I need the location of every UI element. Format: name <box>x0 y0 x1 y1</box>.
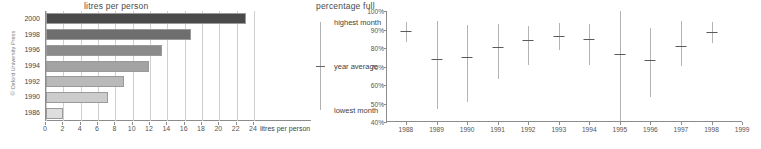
bar-row <box>46 92 254 103</box>
y-axis-tick-mark <box>384 67 387 68</box>
y-axis-tick-mark <box>384 122 387 123</box>
y-axis-tick-label: 80% <box>371 45 384 52</box>
y-axis-tick-label: 70% <box>371 63 384 70</box>
bar-row <box>46 45 254 56</box>
average-marker <box>614 54 625 55</box>
x-axis-tick-label: 4 <box>78 125 82 132</box>
range-bar <box>589 24 590 65</box>
y-axis-tick-label: 1996 <box>0 46 40 53</box>
y-axis-tick-label: 100% <box>367 8 384 15</box>
bar <box>46 76 124 87</box>
x-axis-tick-mark <box>149 122 150 125</box>
gridline-vertical <box>254 11 255 121</box>
x-axis-tick-label: 10 <box>128 125 136 132</box>
x-axis-tick-mark <box>184 122 185 125</box>
average-marker <box>492 47 503 48</box>
plot-area-right: 40%50%60%70%80%90%100%198819891990199119… <box>386 11 742 122</box>
legend-item-lowest-month: lowest month <box>334 106 378 115</box>
x-axis-tick-mark <box>406 122 407 125</box>
figure-pair: © Oxford University Press litres per per… <box>0 0 761 149</box>
x-axis-tick-label: 1991 <box>490 126 505 133</box>
y-axis-tick-mark <box>384 104 387 105</box>
average-marker <box>400 31 411 32</box>
range-bar <box>681 21 682 66</box>
x-axis-tick-mark <box>166 122 167 125</box>
plot-area-left <box>45 11 253 121</box>
x-axis-tick-label: 1998 <box>704 126 719 133</box>
range-bar <box>467 25 468 102</box>
x-axis-tick-label: 24 <box>249 125 257 132</box>
x-axis-tick-mark <box>467 122 468 125</box>
x-axis-tick-label: 1994 <box>582 126 597 133</box>
range-bar <box>498 24 499 79</box>
x-axis-tick-mark <box>114 122 115 125</box>
x-axis-tick-label: 1989 <box>429 126 444 133</box>
range-bar <box>650 28 651 97</box>
x-axis-tick-mark <box>437 122 438 125</box>
chart-percentage-full: percentage full highest month year avera… <box>300 0 761 149</box>
y-axis-tick-label: 50% <box>371 100 384 107</box>
x-axis-line <box>46 120 311 121</box>
average-marker <box>431 59 442 60</box>
x-axis-tick-mark <box>559 122 560 125</box>
bar-row <box>46 13 254 24</box>
x-axis-tick-label: 1993 <box>551 126 566 133</box>
y-axis-tick-label: 90% <box>371 26 384 33</box>
x-axis-tick-label: 2 <box>60 125 64 132</box>
range-bar <box>437 21 438 109</box>
x-axis-tick-mark <box>253 122 254 125</box>
bar-row <box>46 29 254 40</box>
x-axis-tick-label: 22 <box>232 125 240 132</box>
x-axis-tick-label: 18 <box>197 125 205 132</box>
x-axis-tick-mark <box>712 122 713 125</box>
average-marker <box>645 60 656 61</box>
y-axis-tick-label: 60% <box>371 82 384 89</box>
y-axis-tick-label: 1998 <box>0 31 40 38</box>
y-axis-tick-mark <box>384 85 387 86</box>
x-axis-tick-mark <box>589 122 590 125</box>
x-axis-tick-mark <box>97 122 98 125</box>
x-axis-tick-label: 1995 <box>613 126 628 133</box>
x-axis-tick-mark <box>201 122 202 125</box>
bar <box>46 29 191 40</box>
chart-title-right: percentage full <box>316 1 375 11</box>
y-axis-tick-mark <box>384 11 387 12</box>
range-bar <box>620 11 621 121</box>
y-axis-tick-label: 1986 <box>0 109 40 116</box>
average-marker <box>462 57 473 58</box>
average-marker <box>706 32 717 33</box>
x-axis-tick-mark <box>681 122 682 125</box>
y-axis-tick-label: 1992 <box>0 78 40 85</box>
x-axis-tick-mark <box>742 122 743 125</box>
average-marker <box>523 40 534 41</box>
x-axis-tick-label: 1988 <box>399 126 414 133</box>
average-marker <box>584 39 595 40</box>
x-axis-tick-mark <box>236 122 237 125</box>
bar-row <box>46 108 254 119</box>
x-axis-tick-label: 6 <box>95 125 99 132</box>
x-axis-tick-mark <box>80 122 81 125</box>
x-axis-tick-label: 20 <box>214 125 222 132</box>
legend-average-tick-icon <box>316 66 325 67</box>
y-axis-tick-label: 2000 <box>0 15 40 22</box>
bar-row <box>46 61 254 72</box>
x-axis-tick-mark <box>620 122 621 125</box>
range-bar <box>528 26 529 65</box>
x-axis-tick-mark <box>218 122 219 125</box>
bar <box>46 61 149 72</box>
bar-row <box>46 76 254 87</box>
average-marker <box>553 36 564 37</box>
bar <box>46 108 63 119</box>
x-axis-tick-mark <box>650 122 651 125</box>
bar <box>46 92 108 103</box>
bar <box>46 45 162 56</box>
y-axis-tick-label: 40% <box>371 119 384 126</box>
x-axis-tick-mark <box>45 122 46 125</box>
bar <box>46 13 246 24</box>
x-axis-tick-label: 0 <box>43 125 47 132</box>
x-axis-tick-label: 1990 <box>460 126 475 133</box>
x-axis-tick-label: 1992 <box>521 126 536 133</box>
x-axis-tick-mark <box>528 122 529 125</box>
average-marker <box>675 46 686 47</box>
y-axis-tick-label: 1990 <box>0 93 40 100</box>
